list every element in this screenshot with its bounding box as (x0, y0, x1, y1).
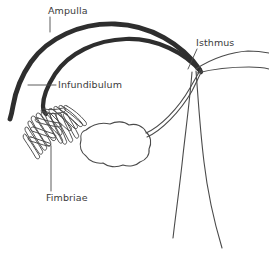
ovary (80, 122, 150, 167)
ovarian-ligament (146, 69, 202, 137)
fimbria (25, 127, 43, 154)
fimbriae-fringe (23, 105, 86, 158)
label-fimbriae: Fimbriae (46, 192, 88, 203)
anatomy-diagram: Ampulla Isthmus Infundibulum Fimbriae (0, 0, 269, 255)
fimbria (23, 134, 39, 159)
ligament-upper-edge (146, 69, 201, 133)
isthmus-upper-line (196, 51, 269, 69)
ligament-inner-sweep (173, 72, 192, 238)
isthmus-lower-line (197, 67, 269, 73)
fimbria (28, 121, 47, 150)
ampulla-outer-wall (10, 24, 200, 119)
isthmus-tube (196, 51, 269, 73)
label-ampulla: Ampulla (48, 5, 88, 16)
fallopian-tube-illustration: Ampulla Isthmus Infundibulum Fimbriae (0, 0, 269, 255)
label-infundibulum: Infundibulum (58, 79, 122, 90)
ampulla-inner-wall (43, 39, 201, 114)
label-isthmus: Isthmus (196, 37, 234, 48)
ligament-outer-sweep (196, 71, 222, 248)
ampulla-tube (10, 24, 201, 119)
broad-ligament (173, 71, 222, 248)
